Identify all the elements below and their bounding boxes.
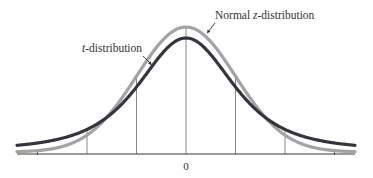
- normal-label-prefix: Normal: [215, 9, 253, 21]
- normal-z-distribution-label: Normal z-distribution: [215, 9, 315, 21]
- x-tick-label-zero: 0: [183, 160, 189, 172]
- distribution-chart: 0 Normal z-distribution t-distribution: [0, 0, 373, 178]
- normal-label-suffix: -distribution: [258, 9, 315, 21]
- t-distribution-label: t-distribution: [82, 42, 142, 54]
- t-label-suffix: -distribution: [85, 42, 142, 54]
